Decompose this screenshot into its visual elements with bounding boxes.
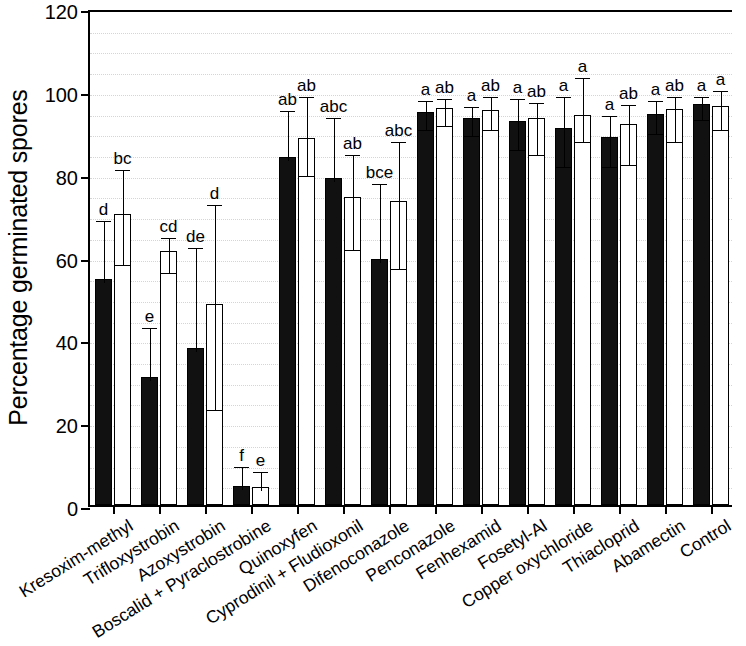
error-bar-cap-lower xyxy=(483,130,498,131)
error-bar-cap-upper xyxy=(299,97,314,98)
significance-letter: cd xyxy=(160,218,178,235)
bar-open xyxy=(436,108,453,505)
error-bar-cap-lower xyxy=(648,134,663,135)
bar-group: aa xyxy=(550,12,596,505)
error-bar-line xyxy=(334,118,335,182)
error-bar-cap-upper xyxy=(437,99,452,100)
significance-letter: ab xyxy=(343,135,362,152)
error-bar-cap-upper xyxy=(575,78,590,79)
y-tick-mark xyxy=(81,260,90,262)
bar-group: aab xyxy=(412,12,458,505)
bar-open xyxy=(482,110,499,505)
significance-letter: de xyxy=(186,228,205,245)
error-bar-cap-lower xyxy=(115,265,130,266)
x-axis-label: Control xyxy=(677,517,734,562)
error-bar-cap-upper xyxy=(188,248,203,249)
error-bar-line xyxy=(261,472,262,491)
error-bar-line xyxy=(564,97,565,167)
error-bar-cap-upper xyxy=(345,155,360,156)
error-bar-cap-upper xyxy=(418,101,433,102)
error-bar-cap-lower xyxy=(602,167,617,168)
bar-open xyxy=(574,115,591,505)
significance-letter: ab xyxy=(665,77,684,94)
error-bar-cap-lower xyxy=(694,120,709,121)
error-bar-cap-upper xyxy=(510,99,525,100)
error-bar-cap-lower xyxy=(161,273,176,274)
error-bar-cap-upper xyxy=(253,472,268,473)
significance-letter: a xyxy=(559,77,568,94)
bar-filled xyxy=(279,157,296,505)
error-bar-line xyxy=(518,99,519,150)
significance-letter: bce xyxy=(366,164,393,181)
bar-group: bceabc xyxy=(366,12,412,505)
error-bar-line xyxy=(307,97,308,176)
bar-filled xyxy=(509,121,526,505)
bar-open xyxy=(666,109,683,505)
error-bar-line xyxy=(196,248,197,352)
error-bar-line xyxy=(656,101,657,134)
y-tick-mark xyxy=(81,177,90,179)
bar-filled xyxy=(95,279,112,505)
error-bar-cap-lower xyxy=(621,165,636,166)
error-bar-cap-lower xyxy=(299,176,314,177)
error-bar-cap-upper xyxy=(326,118,341,119)
significance-letter: ab xyxy=(297,77,316,94)
error-bar-cap-lower xyxy=(437,126,452,127)
significance-letter: a xyxy=(513,79,522,96)
bar-open xyxy=(528,118,545,505)
error-bar-cap-upper xyxy=(234,467,249,468)
x-axis-labels: Kresoxim-methylTrifloxystrobinAzoxystrob… xyxy=(88,507,732,646)
significance-letter: a xyxy=(605,96,614,113)
error-bar-cap-lower xyxy=(510,150,525,151)
error-bar-cap-upper xyxy=(280,111,295,112)
error-bar-line xyxy=(426,101,427,130)
bar-group: aab xyxy=(596,12,642,505)
bar-group: aab xyxy=(458,12,504,505)
bar-filled xyxy=(647,114,664,505)
bar-group: aab xyxy=(504,12,550,505)
bar-filled xyxy=(555,128,572,505)
y-tick-mark xyxy=(81,425,90,427)
error-bar-cap-upper xyxy=(713,91,728,92)
error-bar-line xyxy=(123,170,124,265)
error-bar-line xyxy=(472,107,473,136)
error-bar-cap-lower xyxy=(464,136,479,137)
bar-filled xyxy=(141,377,158,505)
significance-letter: ab xyxy=(278,91,297,108)
error-bar-line xyxy=(399,142,400,268)
significance-letter: ab xyxy=(619,85,638,102)
bar-filled xyxy=(371,259,388,505)
error-bar-line xyxy=(150,328,151,382)
error-bar-cap-lower xyxy=(556,167,571,168)
significance-letter: a xyxy=(578,58,587,75)
error-bar-cap-lower xyxy=(529,155,544,156)
error-bar-line xyxy=(537,103,538,155)
significance-letter: e xyxy=(256,452,265,469)
error-bar-cap-upper xyxy=(667,97,682,98)
bar-filled xyxy=(187,348,204,505)
error-bar-cap-upper xyxy=(207,205,222,206)
error-bar-cap-lower xyxy=(667,142,682,143)
error-bar-cap-upper xyxy=(464,107,479,108)
error-bar-cap-upper xyxy=(648,101,663,102)
error-bar-line xyxy=(702,97,703,120)
error-bar-line xyxy=(583,78,584,142)
error-bar-line xyxy=(380,184,381,263)
bar-open xyxy=(160,251,177,505)
significance-letter: a xyxy=(467,87,476,104)
error-bar-cap-upper xyxy=(556,97,571,98)
bar-filled xyxy=(463,118,480,505)
error-bar-cap-upper xyxy=(372,184,387,185)
significance-letter: a xyxy=(716,71,725,88)
significance-letter: f xyxy=(239,447,244,464)
error-bar-line xyxy=(242,467,243,490)
bar-filled xyxy=(325,178,342,505)
error-bar-cap-upper xyxy=(115,170,130,171)
error-bar-cap-lower xyxy=(713,130,728,131)
significance-letter: ab xyxy=(481,77,500,94)
bar-group: aa xyxy=(688,12,734,505)
error-bar-line xyxy=(491,97,492,130)
significance-letter: abc xyxy=(385,122,412,139)
significance-letter: abc xyxy=(320,98,347,115)
error-bar-line xyxy=(721,91,722,130)
